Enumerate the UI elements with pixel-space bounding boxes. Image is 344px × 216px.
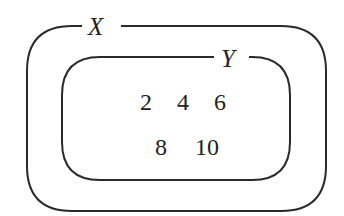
set-x-boundary <box>27 26 326 211</box>
element-4: 4 <box>177 89 189 115</box>
set-x-label: X <box>87 13 105 40</box>
element-2: 2 <box>140 89 152 115</box>
element-10: 10 <box>195 134 219 160</box>
set-y-boundary <box>62 57 290 180</box>
element-8: 8 <box>155 134 167 160</box>
set-y-label: Y <box>221 45 238 72</box>
element-6: 6 <box>214 89 226 115</box>
venn-diagram: X Y 2 4 6 8 10 <box>0 0 344 216</box>
